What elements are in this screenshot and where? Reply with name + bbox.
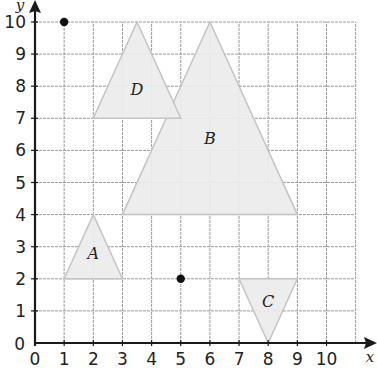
triangle-label-d: D xyxy=(130,80,144,99)
y-tick-label: 4 xyxy=(15,205,26,225)
y-tick-label: 7 xyxy=(15,108,26,128)
x-axis-label: x xyxy=(366,348,375,366)
x-tick-label: 8 xyxy=(263,349,274,368)
y-tick-label: 0 xyxy=(14,334,25,354)
y-axis-label: y xyxy=(15,0,25,14)
x-tick-label: 7 xyxy=(234,349,245,368)
x-tick-label: 6 xyxy=(204,349,215,368)
triangle-d xyxy=(93,22,180,118)
y-tick-label: 1 xyxy=(15,301,26,321)
triangle-label-a: A xyxy=(86,244,100,263)
x-tick-label: 4 xyxy=(146,349,157,368)
y-tick-label: 10 xyxy=(4,12,26,32)
x-tick-label: 10 xyxy=(316,349,338,368)
y-tick-label: 3 xyxy=(15,237,26,257)
coordinate-grid: 012345678910012345678910xyABCD xyxy=(0,0,377,368)
point-marker xyxy=(60,18,68,26)
y-tick-label: 2 xyxy=(15,269,26,289)
y-tick-label: 8 xyxy=(15,76,26,96)
x-tick-label: 9 xyxy=(292,349,303,368)
y-tick-label: 6 xyxy=(15,140,26,160)
x-tick-label: 0 xyxy=(30,349,41,368)
point-marker xyxy=(177,275,185,283)
x-tick-label: 3 xyxy=(117,349,128,368)
y-tick-label: 5 xyxy=(15,173,26,193)
x-tick-label: 1 xyxy=(59,349,70,368)
x-tick-label: 5 xyxy=(175,349,186,368)
triangle-label-c: C xyxy=(262,292,274,311)
triangle-label-b: B xyxy=(203,129,216,148)
x-tick-label: 2 xyxy=(88,349,99,368)
y-tick-label: 9 xyxy=(15,44,26,64)
